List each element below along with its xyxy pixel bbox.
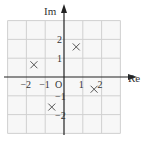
x-tick-label: 2 [98, 79, 103, 90]
x-tick-label: −1 [39, 79, 50, 90]
y-axis-arrow-icon [61, 4, 67, 13]
y-tick-label: −1 [55, 91, 66, 102]
origin-label: O [55, 79, 62, 90]
y-tick-label: 1 [57, 53, 62, 64]
y-tick-label: −2 [55, 110, 66, 121]
complex-plane-diagram: −2−11221−1−2 Re Im O [0, 0, 145, 142]
x-axis-label: Re [128, 72, 140, 84]
x-tick-label: −2 [20, 79, 31, 90]
x-tick-label: 1 [79, 79, 84, 90]
y-tick-label: 2 [57, 34, 62, 45]
y-axis-label: Im [44, 5, 57, 17]
